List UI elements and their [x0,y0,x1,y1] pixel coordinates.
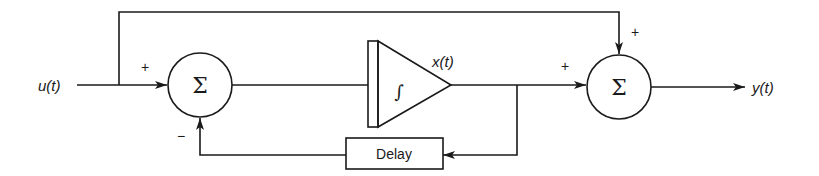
feedback-wire [200,118,346,155]
block-diagram: u(t) Σ + − ∫ x(t) + Delay Σ + y(t) [0,0,819,176]
delay-label: Delay [376,146,412,162]
delay-input-wire [443,85,517,155]
state-signal-label: x(t) [431,53,454,70]
diagram-canvas: u(t) Σ + − ∫ x(t) + Delay Σ + y(t) [0,0,819,176]
integrator-bar [368,41,378,127]
sum1-sigma-symbol: Σ [192,73,208,98]
integral-icon: ∫ [394,81,404,102]
sum2-sigma-symbol: Σ [611,75,627,100]
sum2-top-plus-sign: + [631,24,639,40]
sum2-main-plus-sign: + [561,58,569,74]
sum1-minus-sign: − [177,128,185,144]
output-signal-label: y(t) [751,79,774,96]
input-signal-label: u(t) [38,77,61,94]
sum1-plus-sign: + [141,59,149,75]
